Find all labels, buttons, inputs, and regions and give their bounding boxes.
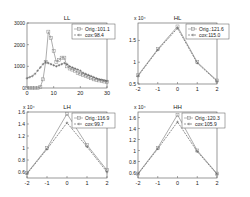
x-tick-label: 0	[65, 180, 68, 186]
y-tick-label: 0.8	[18, 157, 25, 163]
panel-hl: HLx 10⁴-2-10120.511.5Orig.:121.6cox:115.…	[129, 15, 229, 92]
y-tick-label: 1.4	[129, 126, 136, 132]
x-tick-label: 0	[25, 90, 28, 96]
y-tick-label: 1.6	[129, 115, 136, 121]
axis-exponent: x 10⁴	[134, 15, 146, 21]
x-tick-label: -1	[45, 180, 50, 186]
legend: Orig.:120.3cox:105.9	[182, 113, 225, 128]
y-tick-label: 1.4	[18, 121, 25, 127]
panel-title: LL	[64, 15, 71, 21]
x-tick-label: 2	[105, 180, 108, 186]
y-tick-label: 0.6	[129, 170, 136, 176]
legend: Orig.:101.1cox:98.4	[72, 24, 115, 39]
panel-lh: LHx 10⁴-2-10120.60.811.21.41.6Orig.:116.…	[18, 104, 115, 186]
y-tick-label: 0.8	[129, 159, 136, 165]
y-tick-label: 1	[22, 145, 25, 151]
x-tick-label: 1	[196, 180, 199, 186]
legend-entry: cox:115.0	[199, 32, 221, 38]
panel-hh: HHx 10⁴-2-10120.60.811.21.41.6Orig.:120.…	[129, 104, 225, 186]
y-tick-label: 3000	[14, 20, 25, 26]
x-tick-label: 1	[196, 86, 199, 92]
y-tick-label: 1000	[14, 63, 25, 69]
y-tick-label: 1.2	[18, 133, 25, 139]
x-tick-label: 30	[104, 90, 110, 96]
axis-exponent: x 10⁴	[134, 104, 146, 110]
legend-entry: cox:99.7	[85, 121, 104, 127]
y-tick-label: 1.5	[129, 37, 136, 43]
panel-title: HL	[174, 15, 182, 21]
x-tick-label: 0	[176, 180, 179, 186]
panel-title: HH	[173, 104, 182, 110]
legend: Orig.:121.6cox:115.0	[186, 24, 229, 39]
legend-entry: cox:98.4	[85, 32, 104, 38]
y-tick-label: 0.6	[18, 169, 25, 175]
x-tick-label: -1	[155, 86, 160, 92]
x-tick-label: 10	[51, 90, 57, 96]
figure: LL01020300100020003000Orig.:101.1cox:98.…	[0, 0, 250, 197]
y-tick-label: 0	[22, 85, 25, 91]
y-tick-label: 0.5	[129, 81, 136, 87]
x-tick-label: 1	[85, 180, 88, 186]
y-tick-label: 2000	[14, 42, 25, 48]
y-tick-label: 1	[133, 59, 136, 65]
x-tick-label: 0	[176, 86, 179, 92]
panel-title: LH	[63, 104, 71, 110]
legend: Orig.:116.9cox:99.7	[72, 113, 115, 128]
y-tick-label: 1.2	[129, 137, 136, 143]
x-tick-label: -2	[136, 86, 141, 92]
x-tick-label: 20	[77, 90, 83, 96]
legend-entry: cox:105.9	[195, 121, 217, 127]
x-tick-label: 2	[215, 86, 218, 92]
x-tick-label: -2	[136, 180, 141, 186]
panel-ll: LL01020300100020003000Orig.:101.1cox:98.…	[14, 15, 115, 96]
x-tick-label: 2	[215, 180, 218, 186]
x-tick-label: -2	[25, 180, 30, 186]
y-tick-label: 1.6	[18, 109, 25, 115]
y-tick-label: 1	[133, 148, 136, 154]
x-tick-label: -1	[155, 180, 160, 186]
